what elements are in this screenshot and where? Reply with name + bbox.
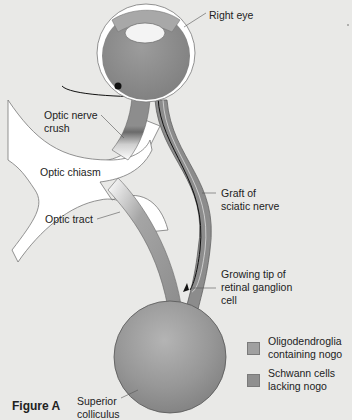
legend-item-schwann-cells: Schwann cells lacking nogo bbox=[247, 367, 335, 392]
label-superior-colliculus-line1: Superior bbox=[77, 395, 117, 408]
superior-colliculus-shape bbox=[114, 301, 226, 413]
legend-label-line1: Oligodendroglia bbox=[268, 335, 342, 348]
label-growing-tip-line2: retinal ganglion bbox=[221, 281, 292, 294]
sciatic-graft-shape bbox=[155, 100, 211, 324]
legend-label-line2: lacking nogo bbox=[268, 380, 335, 393]
legend-label-line1: Schwann cells bbox=[268, 367, 335, 380]
label-optic-chiasm: Optic chiasm bbox=[40, 166, 101, 179]
label-optic-nerve-crush-line1: Optic nerve bbox=[44, 109, 98, 122]
label-optic-tract: Optic tract bbox=[45, 213, 93, 226]
label-growing-tip-line3: cell bbox=[221, 294, 237, 307]
label-optic-nerve-crush-line2: crush bbox=[44, 122, 70, 135]
legend-swatch-oligodendroglia bbox=[247, 342, 260, 355]
right-eye-shape bbox=[97, 4, 195, 102]
legend-swatch-schwann-cells bbox=[247, 374, 260, 387]
label-graft-line2: sciatic nerve bbox=[221, 200, 279, 213]
label-superior-colliculus-line2: colliculus bbox=[77, 408, 120, 420]
label-growing-tip-line1: Growing tip of bbox=[221, 268, 286, 281]
label-right-eye: Right eye bbox=[209, 9, 253, 22]
legend-label-line2: containing nogo bbox=[268, 348, 342, 361]
legend-item-oligodendroglia: Oligodendroglia containing nogo bbox=[247, 335, 342, 360]
figure-canvas: Right eye Optic nerve crush Optic chiasm… bbox=[0, 0, 352, 420]
figure-title: Figure A bbox=[12, 399, 60, 413]
growing-tip-arrow bbox=[183, 283, 189, 292]
label-graft-line1: Graft of bbox=[221, 187, 256, 200]
